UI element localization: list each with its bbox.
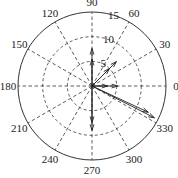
vector-arrow: [92, 69, 109, 86]
spoke-210: [28, 86, 92, 123]
radial-tick-label: 15: [108, 9, 119, 20]
angle-tick-label: 60: [129, 8, 140, 19]
angle-tick-label: 90: [87, 0, 98, 8]
angle-tick-label: 180: [0, 81, 16, 92]
angle-tick-label: 330: [156, 123, 173, 134]
angle-tick-label: 240: [42, 153, 59, 164]
spoke-120: [55, 22, 92, 86]
angle-tick-label: 30: [159, 39, 170, 50]
spoke-150: [28, 49, 92, 86]
radial-tick-label: 5: [101, 57, 107, 68]
angle-tick-label: 210: [11, 123, 28, 134]
angle-tick-label: 120: [42, 8, 59, 19]
spoke-240: [55, 86, 92, 150]
radial-tick-label: 10: [103, 33, 114, 44]
angle-tick-label: 0: [173, 81, 178, 92]
compass-plot: 510150306090120150180210240270300330: [0, 0, 178, 178]
spoke-330: [92, 86, 156, 123]
polar-axes: [0, 0, 178, 178]
angle-tick-label: 300: [126, 153, 143, 164]
angle-tick-label: 270: [84, 165, 101, 176]
angle-tick-label: 150: [11, 39, 28, 50]
